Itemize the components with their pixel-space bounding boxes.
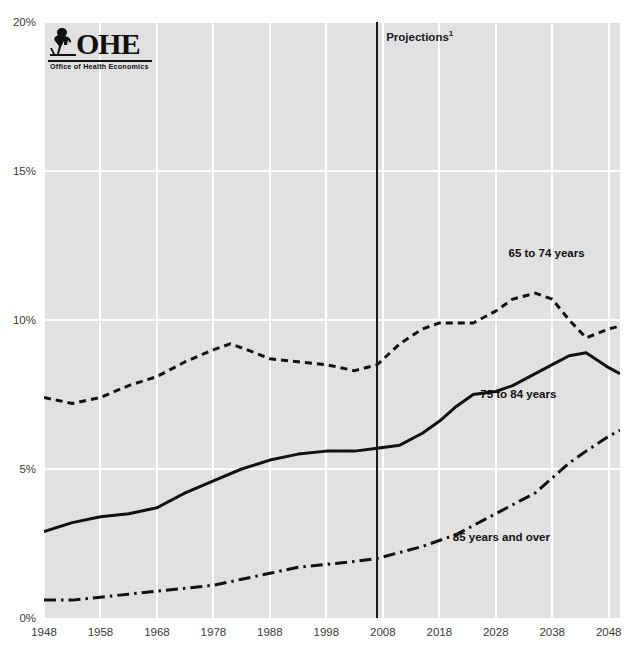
- series-label-2: 85 years and over: [453, 531, 550, 543]
- series-line-1: [44, 353, 620, 532]
- plot-area: Projections1: [44, 22, 620, 618]
- projections-label: Projections1: [386, 29, 453, 43]
- x-tick-2038: 2038: [539, 626, 565, 638]
- x-tick-1958: 1958: [88, 626, 114, 638]
- x-tick-1948: 1948: [31, 626, 57, 638]
- logo-tagline: Office of Health Economics: [50, 62, 149, 71]
- x-tick-1988: 1988: [257, 626, 283, 638]
- projections-footnote-marker: 1: [449, 29, 453, 38]
- projections-vline: [376, 22, 378, 618]
- series-label-1: 75 to 84 years: [480, 388, 556, 400]
- x-axis-labels: 1948195819681978198819982008201820282038…: [0, 626, 627, 650]
- x-tick-1978: 1978: [201, 626, 227, 638]
- x-tick-2048: 2048: [596, 626, 622, 638]
- x-tick-2028: 2028: [483, 626, 509, 638]
- logo-wordmark: OHE: [76, 27, 140, 61]
- series-line-2: [44, 430, 620, 600]
- ohe-logo: OHE Office of Health Economics: [46, 26, 154, 74]
- chart-root: Projections1 OHE Office of Health Econom…: [0, 0, 627, 662]
- y-axis-labels: 0%5%10%15%20%: [0, 0, 40, 662]
- y-tick-10: 10%: [13, 314, 36, 326]
- x-tick-1968: 1968: [144, 626, 170, 638]
- y-tick-15: 15%: [13, 165, 36, 177]
- seated-scholar-icon: [46, 26, 80, 62]
- y-tick-0: 0%: [19, 612, 36, 624]
- series-lines: [44, 22, 620, 618]
- x-tick-2018: 2018: [426, 626, 452, 638]
- x-tick-1998: 1998: [314, 626, 340, 638]
- y-tick-5: 5%: [19, 463, 36, 475]
- x-tick-2008: 2008: [370, 626, 396, 638]
- y-tick-20: 20%: [13, 16, 36, 28]
- series-label-0: 65 to 74 years: [509, 247, 585, 259]
